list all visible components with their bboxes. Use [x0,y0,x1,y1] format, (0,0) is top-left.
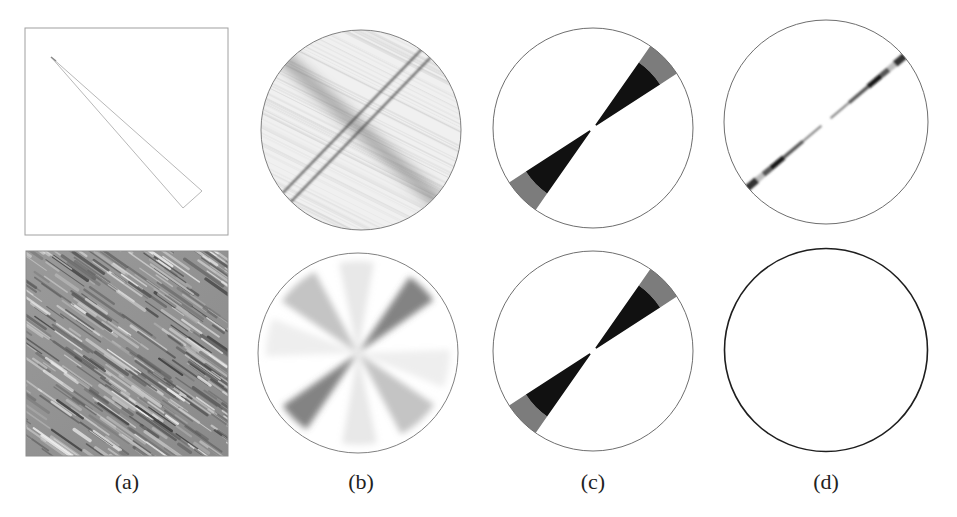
empty-circle [721,245,931,455]
filter-circle-c-top [490,25,696,231]
label-a: (a) [87,469,167,495]
panel-d-top [721,17,931,227]
wedge-outline-figure [24,27,230,237]
label-c: (c) [553,469,633,495]
panel-a-top [24,27,230,237]
panel-b-bottom [255,250,461,456]
soft-wedges [266,261,450,445]
label-b: (b) [321,469,401,495]
label-d: (d) [786,469,866,495]
texture-image [25,250,230,458]
panel-c-bottom [490,248,696,454]
filter-circle-d-top [721,17,931,227]
wedge-spectrum-circle [255,250,461,456]
filter-circle-c-bottom [490,248,696,454]
double-wedge [509,269,677,433]
spectrum-circle [258,27,464,233]
panel-c-top [490,25,696,231]
panel-a-bottom [25,250,230,458]
double-wedge [509,46,677,210]
segmented-line [746,55,905,189]
panel-b-top [258,27,464,233]
panel-d-bottom [721,245,931,455]
